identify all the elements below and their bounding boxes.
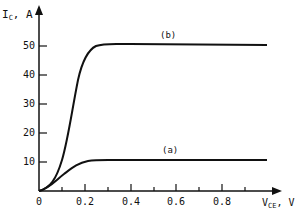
y-tick-label: 10 <box>5 157 35 167</box>
y-label-unit: , A <box>13 8 33 21</box>
y-tick-label: 20 <box>5 128 35 138</box>
x-tick-label: 0.6 <box>161 197 191 207</box>
curve-b-label: (b) <box>160 30 176 40</box>
x-ticks <box>62 184 245 191</box>
x-axis-arrow-icon <box>272 187 282 195</box>
curve-a <box>39 160 267 191</box>
x-tick-label: 0.4 <box>116 197 146 207</box>
x-tick-label: 0 <box>24 197 54 207</box>
y-ticks <box>39 46 47 162</box>
x-label-unit: , V <box>276 197 294 208</box>
y-axis-arrow-icon <box>35 5 43 15</box>
y-label-main: I <box>2 8 9 21</box>
curve-a-label: (a) <box>162 145 178 155</box>
x-tick-label: 0.2 <box>70 197 100 207</box>
curve-b <box>39 44 267 191</box>
x-tick-label: 0.8 <box>207 197 237 207</box>
x-axis-label: VCE, V <box>262 198 295 211</box>
y-tick-label: 40 <box>5 70 35 80</box>
y-tick-label: 30 <box>5 99 35 109</box>
y-axis-label: IC, A <box>2 10 33 23</box>
chart-canvas <box>0 0 298 215</box>
y-tick-label: 50 <box>5 41 35 51</box>
